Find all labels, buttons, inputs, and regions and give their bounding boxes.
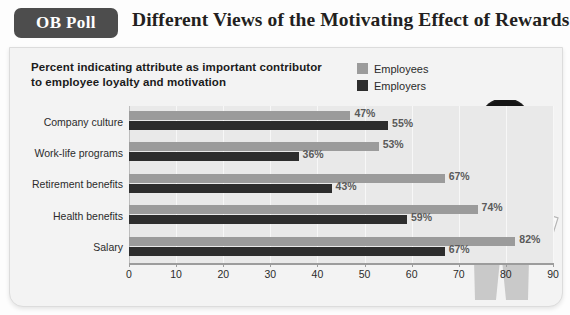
x-axis-tick-labels: 0102030405060708090 (129, 268, 553, 284)
x-axis-tick (317, 263, 318, 267)
x-axis-tick-label: 30 (264, 268, 276, 280)
legend-item-employers: Employers (357, 78, 428, 93)
ob-poll-badge: OB Poll (14, 8, 118, 38)
bar-value-label: 47% (354, 107, 375, 119)
chart-card: Percent indicating attribute as importan… (9, 47, 563, 307)
category-label: Work-life programs (35, 137, 124, 168)
header: OB Poll Different Views of the Motivatin… (0, 0, 570, 48)
x-axis-tick-label: 10 (170, 268, 182, 280)
bar-employees (129, 174, 445, 183)
bar-value-label: 43% (336, 180, 357, 192)
bar-group: 67%43% (129, 169, 553, 200)
bar-value-label: 55% (392, 117, 413, 129)
legend-swatch-icon (357, 63, 368, 74)
page-title: Different Views of the Motivating Effect… (132, 9, 569, 31)
x-axis-tick-label: 90 (547, 268, 559, 280)
bar-value-label: 53% (383, 138, 404, 150)
bar-value-label: 59% (411, 211, 432, 223)
x-axis-tick-label: 60 (406, 268, 418, 280)
bar-employers (129, 184, 332, 193)
x-axis-tick (365, 263, 366, 267)
bar-employers (129, 121, 388, 130)
bar-value-label: 82% (519, 233, 540, 245)
x-axis-tick-label: 50 (359, 268, 371, 280)
category-axis: Company cultureWork-life programsRetirem… (10, 106, 123, 263)
chart-subtitle: Percent indicating attribute as importan… (31, 60, 322, 90)
x-axis-tick-label: 40 (312, 268, 324, 280)
x-axis-tick (553, 263, 554, 267)
chart-legend: EmployeesEmployers (357, 61, 428, 95)
plot-area: 47%55%53%36%67%43%74%59%82%67% (129, 106, 553, 263)
bar-employers (129, 152, 299, 161)
x-axis-tick-label: 0 (126, 268, 132, 280)
x-axis-tick (459, 263, 460, 267)
x-axis-tick-label: 80 (500, 268, 512, 280)
x-axis-tick (270, 263, 271, 267)
gridline (553, 106, 554, 263)
category-label: Salary (93, 232, 123, 263)
poll-infographic: OB Poll Different Views of the Motivatin… (0, 0, 570, 315)
legend-swatch-icon (357, 80, 368, 91)
x-axis-tick-label: 70 (453, 268, 465, 280)
category-label: Company culture (44, 106, 123, 137)
category-label: Retirement benefits (32, 169, 123, 200)
x-axis-tick (223, 263, 224, 267)
x-axis-line (129, 263, 553, 265)
legend-label: Employers (374, 80, 426, 92)
bar-group: 53%36% (129, 137, 553, 168)
bar-group: 82%67% (129, 232, 553, 263)
x-axis-tick (129, 263, 130, 267)
bar-value-label: 67% (449, 243, 470, 255)
category-label: Health benefits (53, 200, 123, 231)
legend-label: Employees (374, 63, 428, 75)
x-axis-tick-label: 20 (217, 268, 229, 280)
bar-employers (129, 247, 445, 256)
bar-value-label: 36% (303, 148, 324, 160)
bar-value-label: 67% (449, 170, 470, 182)
x-axis-tick (506, 263, 507, 267)
x-axis-tick (176, 263, 177, 267)
bar-employees (129, 111, 350, 120)
bar-value-label: 74% (482, 201, 503, 213)
bar-employees (129, 142, 379, 151)
x-axis-tick (412, 263, 413, 267)
bar-group: 74%59% (129, 200, 553, 231)
bar-employers (129, 215, 407, 224)
bar-group: 47%55% (129, 106, 553, 137)
legend-item-employees: Employees (357, 61, 428, 76)
